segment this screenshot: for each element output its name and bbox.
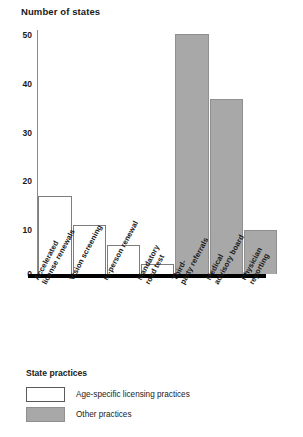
legend: State practices Age-specific licensing p… xyxy=(26,368,286,427)
legend-title: State practices xyxy=(26,368,286,378)
legend-swatch-other xyxy=(26,407,65,422)
legend-label-age-specific: Age-specific licensing practices xyxy=(76,390,190,400)
legend-item-age-specific: Age-specific licensing practices xyxy=(26,387,286,402)
legend-swatch-age-specific xyxy=(26,387,65,402)
legend-label-other: Other practices xyxy=(76,410,132,420)
legend-item-other: Other practices xyxy=(26,407,286,422)
y-tick-label-30: 30 xyxy=(2,129,32,138)
y-tick-label-20: 20 xyxy=(2,177,32,186)
y-tick-label-10: 10 xyxy=(2,226,32,235)
y-tick-label-50: 50 xyxy=(2,31,32,40)
y-axis-title: Number of states xyxy=(21,6,100,17)
category-labels: Accelerated license renewals Vision scre… xyxy=(0,278,303,358)
bar-chart: Number of states 50 40 30 20 10 0 Accele… xyxy=(0,0,303,437)
y-tick-label-40: 40 xyxy=(2,80,32,89)
